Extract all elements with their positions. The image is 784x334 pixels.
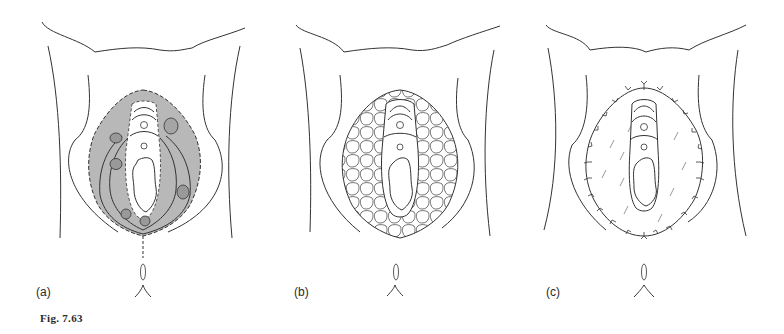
- panel-b-label: (b): [294, 285, 309, 299]
- panel-c-label: (c): [546, 285, 560, 299]
- panel-a-illustration: [0, 0, 262, 334]
- panel-c: (c): [524, 0, 784, 334]
- panel-a: (a): [0, 0, 262, 334]
- panel-b: (b): [262, 0, 524, 334]
- panel-b-illustration: [262, 0, 524, 334]
- panel-a-label: (a): [36, 285, 51, 299]
- figure-caption: Fig. 7.63: [40, 312, 83, 324]
- panel-c-illustration: [524, 0, 784, 334]
